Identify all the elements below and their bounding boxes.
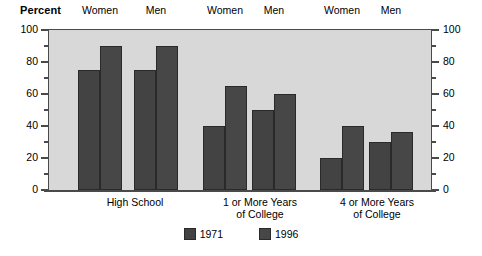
y-tick-left-0 <box>41 189 48 191</box>
bar-1996-3 <box>274 94 296 190</box>
y-tick-left-10 <box>44 173 48 175</box>
legend-swatch-1996-icon <box>259 228 271 240</box>
y-tick-left-90 <box>44 45 48 47</box>
subgroup-label-3: Men <box>244 4 304 16</box>
y-tick-left-100 <box>41 29 48 31</box>
y-tick-left-50 <box>44 109 48 111</box>
y-tick-right-90 <box>432 45 436 47</box>
category-label-line2-1: of College <box>200 208 320 220</box>
y-tick-left-30 <box>44 141 48 143</box>
category-label-line1-1: 1 or More Years <box>200 196 320 208</box>
y-tick-label-left-0: 0 <box>32 184 38 195</box>
y-tick-right-0 <box>432 189 439 191</box>
y-tick-label-right-60: 60 <box>443 88 455 99</box>
y-tick-right-20 <box>432 157 439 159</box>
bar-1996-4 <box>342 126 364 190</box>
category-label-line1-0: High School <box>75 196 195 208</box>
subgroup-label-1: Men <box>126 4 186 16</box>
legend-label-1996: 1996 <box>275 228 298 240</box>
bar-chart-figure: Percent 002020404060608080100100 WomenMe… <box>0 0 482 256</box>
y-axis-title: Percent <box>20 4 61 16</box>
y-tick-label-left-60: 60 <box>26 88 38 99</box>
y-tick-left-60 <box>41 93 48 95</box>
legend-entry-1996: 1996 <box>259 228 298 240</box>
category-label-line2-2: of College <box>317 208 437 220</box>
y-tick-left-20 <box>41 157 48 159</box>
y-tick-label-left-20: 20 <box>26 152 38 163</box>
y-tick-right-70 <box>432 77 436 79</box>
category-label-2: 4 or More Yearsof College <box>317 196 437 220</box>
y-tick-left-80 <box>41 61 48 63</box>
y-tick-label-right-40: 40 <box>443 120 455 131</box>
subgroup-label-5: Men <box>361 4 421 16</box>
bar-1971-3 <box>252 110 274 190</box>
y-tick-right-100 <box>432 29 439 31</box>
bar-1971-1 <box>134 70 156 190</box>
y-tick-label-right-0: 0 <box>443 184 449 195</box>
legend-swatch-1971-icon <box>184 228 196 240</box>
bar-1971-5 <box>369 142 391 190</box>
y-tick-left-70 <box>44 77 48 79</box>
bar-1996-2 <box>225 86 247 190</box>
category-label-0: High School <box>75 196 195 208</box>
category-label-1: 1 or More Yearsof College <box>200 196 320 220</box>
legend-entry-1971: 1971 <box>184 228 223 240</box>
bar-1971-2 <box>203 126 225 190</box>
y-tick-label-left-100: 100 <box>20 24 38 35</box>
y-tick-right-60 <box>432 93 439 95</box>
y-tick-label-left-40: 40 <box>26 120 38 131</box>
y-tick-label-right-20: 20 <box>443 152 455 163</box>
y-tick-right-50 <box>432 109 436 111</box>
chart-legend: 1971 1996 <box>0 228 482 240</box>
x-axis-baseline <box>44 190 436 192</box>
bar-1971-0 <box>78 70 100 190</box>
legend-label-1971: 1971 <box>200 228 223 240</box>
y-tick-right-10 <box>432 173 436 175</box>
subgroup-label-0: Women <box>70 4 130 16</box>
y-tick-right-40 <box>432 125 439 127</box>
bar-1996-1 <box>156 46 178 190</box>
bar-1996-5 <box>391 132 413 190</box>
y-tick-label-right-100: 100 <box>443 24 461 35</box>
y-tick-right-30 <box>432 141 436 143</box>
bar-1996-0 <box>100 46 122 190</box>
y-tick-label-right-80: 80 <box>443 56 455 67</box>
category-label-line1-2: 4 or More Years <box>317 196 437 208</box>
y-tick-left-40 <box>41 125 48 127</box>
y-tick-label-left-80: 80 <box>26 56 38 67</box>
bar-1971-4 <box>320 158 342 190</box>
y-tick-right-80 <box>432 61 439 63</box>
